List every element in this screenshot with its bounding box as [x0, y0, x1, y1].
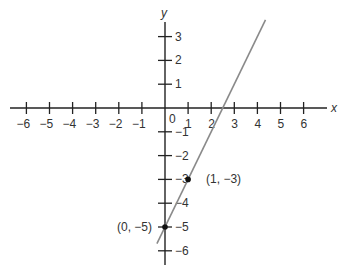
x-tick-label: 4 [254, 117, 261, 131]
x-tick-label: 3 [231, 117, 238, 131]
axes [10, 22, 327, 265]
x-tick-label: 5 [278, 117, 285, 131]
x-axis-label: x [330, 101, 338, 115]
y-axis-label: y [160, 6, 168, 20]
x-tick-label: −5 [40, 117, 54, 131]
coordinate-plane: xy0−6−5−4−3−2−1123456321−1−2−3−4−5−6 (0,… [0, 0, 340, 277]
y-tick-label: 3 [175, 30, 182, 44]
tick-labels: xy0−6−5−4−3−2−1123456321−1−2−3−4−5−6 [16, 6, 338, 258]
x-tick-label: −2 [109, 117, 123, 131]
point-label: (0, −5) [117, 220, 152, 234]
point-marker [185, 177, 191, 183]
x-tick-label: −4 [63, 117, 77, 131]
line-y-equals-2x-minus-5 [157, 20, 266, 244]
x-tick-label: −6 [16, 117, 30, 131]
graph-line [157, 20, 266, 244]
y-tick-label: −6 [175, 244, 189, 258]
point-label: (1, −3) [206, 172, 241, 186]
y-tick-label: −1 [175, 125, 189, 139]
y-tick-label: 2 [175, 53, 182, 67]
x-tick-label: −3 [86, 117, 100, 131]
y-tick-label: 1 [175, 77, 182, 91]
y-tick-label: −5 [175, 220, 189, 234]
x-tick-label: −1 [132, 117, 146, 131]
y-tick-label: −2 [175, 149, 189, 163]
point-marker [162, 224, 168, 230]
x-tick-label: 6 [301, 117, 308, 131]
